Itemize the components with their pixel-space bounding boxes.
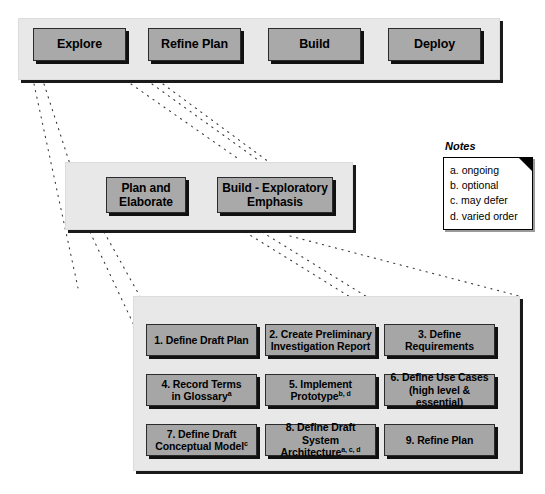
activity-label-5: 5. ImplementPrototypeb, d xyxy=(269,378,372,403)
activity-label-6: 6. Define Use Cases(high level & essenti… xyxy=(388,371,491,408)
phase-label-refine-plan: Refine Plan xyxy=(152,37,237,52)
stage-box-build-exploratory-emphasis[interactable]: Build - ExploratoryEmphasis xyxy=(217,177,333,213)
activity-label-9: 9. Refine Plan xyxy=(388,434,491,446)
activity-label-8: 8. Define Draft SystemArchitecturea, c, … xyxy=(269,421,372,458)
activity-label-7: 7. Define DraftConceptual Modelc xyxy=(150,428,253,453)
note-item-d: d. varied order xyxy=(450,209,528,224)
activity-box-8[interactable]: 8. Define Draft SystemArchitecturea, c, … xyxy=(265,424,376,456)
notes-title: Notes xyxy=(445,140,535,152)
stage-box-plan-and-elaborate[interactable]: Plan andElaborate xyxy=(106,177,186,213)
page-fold-icon xyxy=(518,157,533,172)
phase-box-build[interactable]: Build xyxy=(268,28,361,61)
note-item-c: c. may defer xyxy=(450,193,528,208)
note-item-b: b. optional xyxy=(450,178,528,193)
notes-panel: Notes a. ongoing b. optional c. may defe… xyxy=(443,140,535,230)
activity-box-4[interactable]: 4. Record Termsin Glossarya xyxy=(146,374,257,406)
activity-box-9[interactable]: 9. Refine Plan xyxy=(384,424,495,456)
activity-label-4: 4. Record Termsin Glossarya xyxy=(150,378,253,403)
stage-label-build-exploratory-emphasis: Build - ExploratoryEmphasis xyxy=(221,181,329,209)
activity-label-3: 3. Define Requirements xyxy=(388,328,491,353)
phase-box-explore[interactable]: Explore xyxy=(33,28,126,61)
note-item-a: a. ongoing xyxy=(450,163,528,178)
stage-label-plan-and-elaborate: Plan andElaborate xyxy=(110,181,182,209)
notes-box: a. ongoing b. optional c. may defer d. v… xyxy=(443,157,533,230)
phase-label-explore: Explore xyxy=(37,37,122,52)
activity-box-6[interactable]: 6. Define Use Cases(high level & essenti… xyxy=(384,374,495,406)
activity-box-1[interactable]: 1. Define Draft Plan xyxy=(146,324,257,356)
phase-box-deploy[interactable]: Deploy xyxy=(388,28,481,61)
diagram-canvas: Explore Refine Plan Build Deploy Plan an… xyxy=(0,0,545,494)
phase-label-build: Build xyxy=(272,37,357,52)
activity-box-5[interactable]: 5. ImplementPrototypeb, d xyxy=(265,374,376,406)
activity-box-7[interactable]: 7. Define DraftConceptual Modelc xyxy=(146,424,257,456)
activity-box-3[interactable]: 3. Define Requirements xyxy=(384,324,495,356)
activity-label-2: 2. Create PreliminaryInvestigation Repor… xyxy=(269,328,372,353)
notes-list: a. ongoing b. optional c. may defer d. v… xyxy=(450,163,528,224)
phase-label-deploy: Deploy xyxy=(392,37,477,52)
activity-box-2[interactable]: 2. Create PreliminaryInvestigation Repor… xyxy=(265,324,376,356)
activity-label-1: 1. Define Draft Plan xyxy=(150,334,253,346)
phase-box-refine-plan[interactable]: Refine Plan xyxy=(148,28,241,61)
